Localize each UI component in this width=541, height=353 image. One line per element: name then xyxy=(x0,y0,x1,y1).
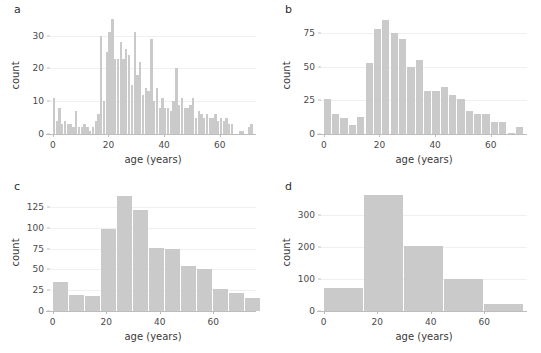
histogram-bar xyxy=(491,122,498,134)
histogram-bar xyxy=(349,125,356,134)
y-tick-label: 10 xyxy=(33,96,44,106)
y-tick-label: 75 xyxy=(33,244,44,254)
x-tick-label: 40 xyxy=(158,140,169,150)
x-tick-label: 40 xyxy=(425,317,436,327)
y-tick-mark xyxy=(318,279,321,280)
y-tick-label: 30 xyxy=(33,31,44,41)
histogram-bar xyxy=(441,87,448,134)
panel-label-c: c xyxy=(14,180,20,193)
x-axis-line xyxy=(317,134,527,135)
x-tick-label: 60 xyxy=(478,317,489,327)
y-tick-mark xyxy=(318,100,321,101)
y-tick-label: 0 xyxy=(38,129,44,139)
y-tick-label: 50 xyxy=(33,264,44,274)
histogram-bar xyxy=(324,288,363,311)
plot-inner-d: 01002003000204060 xyxy=(321,193,527,311)
y-tick-mark xyxy=(318,33,321,34)
x-tick-label: 60 xyxy=(207,317,218,327)
x-tick-mark xyxy=(491,134,492,137)
gridline xyxy=(321,33,527,34)
histogram-bar xyxy=(324,99,331,134)
x-tick-label: 60 xyxy=(485,140,496,150)
histogram-bar xyxy=(117,196,132,311)
gridline xyxy=(50,207,256,208)
histogram-bar xyxy=(382,20,389,134)
panel-d: d count 01002003000204060 age (years) xyxy=(271,177,541,353)
x-tick-label: 0 xyxy=(321,317,327,327)
y-tick-mark xyxy=(47,68,50,69)
histogram-bar xyxy=(149,248,164,311)
x-tick-mark xyxy=(53,311,54,314)
x-tick-mark xyxy=(164,134,165,137)
x-tick-mark xyxy=(324,311,325,314)
y-tick-label: 75 xyxy=(304,28,315,38)
y-axis-label-a: count xyxy=(8,16,22,134)
histogram-bar xyxy=(444,279,483,311)
y-tick-label: 50 xyxy=(304,62,315,72)
y-axis-label-d: count xyxy=(279,193,293,311)
histogram-bar xyxy=(399,39,406,134)
histogram-bar xyxy=(101,229,116,311)
x-tick-mark xyxy=(379,134,380,137)
y-tick-mark xyxy=(318,215,321,216)
plot-area-d: 01002003000204060 xyxy=(321,193,527,311)
histogram-bar xyxy=(250,124,252,134)
y-tick-mark xyxy=(47,207,50,208)
x-axis-label-c: age (years) xyxy=(50,331,256,342)
y-tick-mark xyxy=(47,101,50,102)
gridline xyxy=(321,67,527,68)
y-tick-label: 200 xyxy=(298,242,315,252)
y-tick-mark xyxy=(47,35,50,36)
y-tick-label: 0 xyxy=(309,306,315,316)
x-tick-mark xyxy=(160,311,161,314)
x-axis-line xyxy=(46,311,256,312)
histogram-bar xyxy=(231,124,233,134)
histogram-bar xyxy=(229,293,244,311)
x-tick-label: 0 xyxy=(50,317,56,327)
x-tick-label: 0 xyxy=(321,140,327,150)
y-tick-label: 25 xyxy=(304,95,315,105)
panel-label-d: d xyxy=(285,180,292,193)
histogram-bar xyxy=(474,114,481,134)
histogram-bar xyxy=(357,117,364,134)
x-tick-label: 40 xyxy=(154,317,165,327)
x-tick-mark xyxy=(377,311,378,314)
histogram-bar xyxy=(516,127,523,134)
x-axis-line xyxy=(46,134,256,135)
panel-c: c count 02550751001250204060 age (years) xyxy=(0,177,270,353)
histogram-bar xyxy=(391,33,398,134)
plot-inner-c: 02550751001250204060 xyxy=(50,193,256,311)
histogram-bar xyxy=(332,114,339,134)
panel-label-a: a xyxy=(14,3,21,16)
y-tick-mark xyxy=(318,66,321,67)
y-tick-mark xyxy=(47,248,50,249)
panel-a: a count 01020300204060 age (years) xyxy=(0,0,270,176)
plot-inner-a: 01020300204060 xyxy=(50,16,256,134)
x-axis-label-b: age (years) xyxy=(321,154,527,165)
y-tick-mark xyxy=(47,269,50,270)
x-tick-mark xyxy=(484,311,485,314)
histogram-bar xyxy=(466,111,473,134)
y-tick-mark xyxy=(47,290,50,291)
x-tick-label: 0 xyxy=(50,140,56,150)
histogram-bar xyxy=(407,67,414,134)
y-tick-label: 300 xyxy=(298,210,315,220)
histogram-bar xyxy=(457,99,464,134)
gridline xyxy=(50,68,256,69)
x-tick-mark xyxy=(53,134,54,137)
x-tick-label: 20 xyxy=(371,317,382,327)
histogram-bar xyxy=(432,91,439,134)
y-tick-mark xyxy=(318,247,321,248)
y-axis-label-b: count xyxy=(279,16,293,134)
panel-label-b: b xyxy=(285,3,292,16)
histogram-bar xyxy=(181,266,196,311)
x-tick-mark xyxy=(431,311,432,314)
histogram-bar xyxy=(85,296,100,311)
histogram-bar xyxy=(165,249,180,311)
x-axis-label-a: age (years) xyxy=(50,154,256,165)
y-axis-label-c: count xyxy=(8,193,22,311)
gridline xyxy=(50,36,256,37)
histogram-bar xyxy=(484,304,523,311)
gridline xyxy=(321,215,527,216)
histogram-bar xyxy=(364,195,403,311)
